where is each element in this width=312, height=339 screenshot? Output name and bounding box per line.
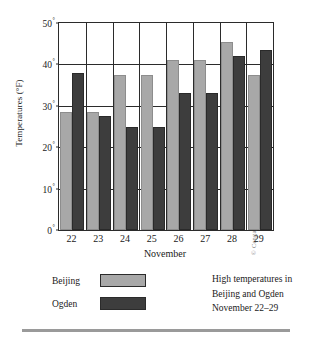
bar-group xyxy=(60,23,84,230)
bar-series-container xyxy=(59,23,273,230)
bar-ogden-28 xyxy=(233,56,245,230)
figure: Temperatures (°F) 0°10°20°30°40°50° Nove… xyxy=(0,0,312,339)
bar-ogden-25 xyxy=(153,127,165,231)
bar-group xyxy=(114,23,138,230)
y-axis-tick-label: 20° xyxy=(43,142,55,153)
bar-ogden-29 xyxy=(260,50,272,230)
x-axis-tick-label: 24 xyxy=(120,233,130,244)
y-axis-tick-mark xyxy=(56,147,59,148)
x-axis-tick-label: 22 xyxy=(66,233,76,244)
legend: High temperatures inBeijing and OgdenNov… xyxy=(52,272,282,318)
bar-ogden-27 xyxy=(206,93,218,230)
bar-ogden-24 xyxy=(126,127,138,231)
bar-group xyxy=(194,23,218,230)
bar-group xyxy=(221,23,245,230)
bar-beijing-25 xyxy=(141,75,153,230)
legend-label-beijing: Beijing xyxy=(52,276,100,286)
y-axis-tick-mark xyxy=(56,230,59,231)
x-axis-tick-label: 23 xyxy=(93,233,103,244)
bar-group xyxy=(167,23,191,230)
y-axis-tick-mark xyxy=(56,64,59,65)
legend-row-beijing: Beijing xyxy=(52,272,146,289)
bar-group xyxy=(141,23,165,230)
legend-row-ogden: Ogden xyxy=(52,295,146,312)
y-axis-tick-label: 10° xyxy=(43,183,55,194)
bar-beijing-27 xyxy=(194,60,206,230)
y-axis-tick-label: 50° xyxy=(43,17,55,28)
y-axis-tick-label: 30° xyxy=(43,100,55,111)
x-axis-tick-label: 25 xyxy=(147,233,157,244)
bar-beijing-28 xyxy=(221,42,233,230)
bar-ogden-22 xyxy=(72,73,84,230)
legend-label-ogden: Ogden xyxy=(52,299,100,309)
legend-swatch-beijing xyxy=(100,274,146,287)
caption-line: Beijing and Ogden xyxy=(212,287,312,302)
y-axis-tick-mark xyxy=(56,105,59,106)
bar-beijing-29 xyxy=(248,75,260,230)
y-axis-tick-mark xyxy=(56,188,59,189)
bar-ogden-26 xyxy=(179,93,191,230)
bar-group xyxy=(87,23,111,230)
x-axis-tick-label: 29 xyxy=(254,233,264,244)
legend-caption: High temperatures inBeijing and OgdenNov… xyxy=(212,272,312,316)
bar-beijing-26 xyxy=(167,60,179,230)
y-axis-title: Temperatures (°F) xyxy=(14,53,24,173)
bar-beijing-23 xyxy=(87,112,99,230)
bottom-rule xyxy=(22,329,290,332)
x-axis-tick-label: 26 xyxy=(173,233,183,244)
plot-area: 0°10°20°30°40°50° xyxy=(58,22,274,231)
y-axis-tick-mark xyxy=(56,23,59,24)
bar-group xyxy=(248,23,272,230)
caption-line: November 22–29 xyxy=(212,301,312,316)
legend-swatch-ogden xyxy=(100,297,146,310)
y-axis-tick-label: 40° xyxy=(43,59,55,70)
x-axis-tick-label: 27 xyxy=(200,233,210,244)
x-axis-tick-label: 28 xyxy=(227,233,237,244)
x-axis-title: November xyxy=(58,248,272,259)
bar-ogden-23 xyxy=(99,116,111,230)
bar-beijing-24 xyxy=(114,75,126,230)
caption-line: High temperatures in xyxy=(212,272,312,287)
y-axis-tick-label: 0° xyxy=(47,224,55,235)
bar-beijing-22 xyxy=(60,112,72,230)
